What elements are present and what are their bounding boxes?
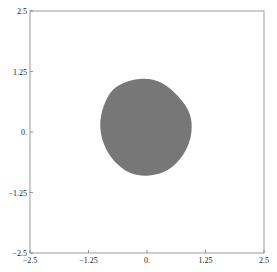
region-shape bbox=[100, 79, 192, 176]
x-axis-ticks: −2.5−1.250.1.252.5 bbox=[23, 250, 269, 265]
y-tick-label: 2.5 bbox=[17, 7, 27, 16]
filled-region bbox=[100, 79, 192, 176]
x-tick-label: −1.25 bbox=[79, 256, 98, 265]
region-plot: −2.5−1.250.1.252.5 −2.5−1.250.1.252.5 bbox=[0, 0, 277, 272]
y-tick-label: 1.25 bbox=[13, 68, 27, 77]
x-tick-label: 0. bbox=[144, 256, 150, 265]
x-tick-label: 2.5 bbox=[259, 256, 269, 265]
y-tick-label: −2.5 bbox=[12, 249, 27, 258]
y-tick-label: 0. bbox=[21, 128, 27, 137]
y-axis-ticks: −2.5−1.250.1.252.5 bbox=[8, 7, 33, 258]
y-tick-label: −1.25 bbox=[8, 189, 27, 198]
x-tick-label: 1.25 bbox=[199, 256, 213, 265]
